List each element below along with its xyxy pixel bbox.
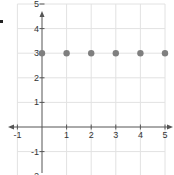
y-axis-arrow-up-icon <box>40 11 45 17</box>
x-tick-label: -1 <box>13 130 21 140</box>
data-point <box>39 50 45 56</box>
y-tick-label: -2 <box>31 171 39 175</box>
y-tick-label: 3 <box>34 48 39 58</box>
x-tick-label: 1 <box>64 130 69 140</box>
data-point <box>137 50 143 56</box>
coordinate-plane: -11234554321-1-2 <box>0 0 174 175</box>
grid-lines <box>17 4 165 175</box>
x-axis-arrow-left-icon <box>8 125 14 130</box>
y-tick-label: 2 <box>34 73 39 83</box>
data-point <box>63 50 69 56</box>
x-axis-arrow-right-icon <box>167 125 173 130</box>
data-point <box>162 50 168 56</box>
y-tick-label: 1 <box>34 97 39 107</box>
data-point <box>88 50 94 56</box>
x-tick-label: 2 <box>89 130 94 140</box>
y-tick-label: -1 <box>31 147 39 157</box>
tick-labels: -11234554321-1-2 <box>13 0 167 175</box>
x-tick-label: 5 <box>162 130 167 140</box>
x-tick-label: 3 <box>113 130 118 140</box>
y-tick-label: 4 <box>34 24 39 34</box>
x-tick-label: 4 <box>138 130 143 140</box>
y-tick-label: 5 <box>34 0 39 9</box>
data-point <box>113 50 119 56</box>
